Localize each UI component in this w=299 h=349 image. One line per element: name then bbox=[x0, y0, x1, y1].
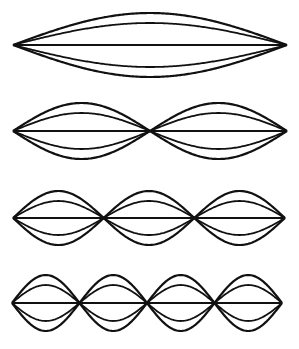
wave-envelope-inner-upper bbox=[13, 201, 285, 218]
wave-envelope-outer-lower bbox=[13, 218, 285, 245]
wave-envelope-inner-lower bbox=[12, 303, 282, 321]
wave-envelope-outer-lower bbox=[12, 303, 282, 331]
standing-wave-diagram bbox=[0, 0, 299, 349]
harmonic-row-3 bbox=[13, 191, 285, 245]
wave-envelope-inner-upper bbox=[12, 285, 282, 303]
wave-envelope-outer-upper bbox=[13, 13, 287, 45]
wave-envelope-inner-lower bbox=[13, 45, 287, 67]
wave-envelope-inner-lower bbox=[13, 218, 285, 235]
wave-envelope-outer-upper bbox=[12, 275, 282, 303]
wave-envelope-outer-upper bbox=[13, 191, 285, 218]
wave-envelope-inner-upper bbox=[13, 113, 287, 131]
wave-envelope-inner-lower bbox=[13, 131, 287, 149]
harmonic-row-4 bbox=[12, 275, 282, 331]
harmonic-row-2 bbox=[13, 103, 287, 159]
wave-envelope-outer-lower bbox=[13, 45, 287, 77]
harmonic-row-1 bbox=[13, 13, 287, 77]
wave-envelope-inner-upper bbox=[13, 23, 287, 45]
